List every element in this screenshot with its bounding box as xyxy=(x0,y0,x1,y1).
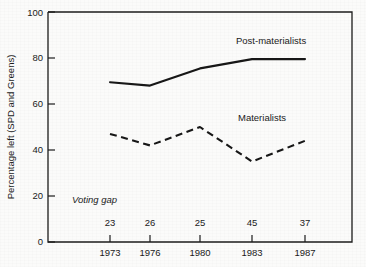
y-tick-label-60: 60 xyxy=(32,98,43,109)
x-axis-tick-labels: 1973 1976 1980 1983 1987 xyxy=(99,247,315,258)
x-axis-ticks xyxy=(110,235,305,242)
voting-gap-value-1983: 45 xyxy=(247,217,258,228)
y-tick-label-100: 100 xyxy=(27,7,43,18)
voting-gap-value-1987: 37 xyxy=(300,217,311,228)
y-axis-title: Percentage left (SPD and Greens) xyxy=(5,55,16,200)
series-label-materialists: Materialists xyxy=(238,112,286,123)
y-axis-ticks xyxy=(48,12,55,242)
y-tick-label-40: 40 xyxy=(32,144,43,155)
y-tick-label-20: 20 xyxy=(32,190,43,201)
x-tick-label-1976: 1976 xyxy=(139,247,160,258)
series-line-materialists xyxy=(110,127,305,162)
y-axis-tick-labels: 100 80 60 40 20 0 xyxy=(27,7,43,247)
voting-gap-value-1973: 23 xyxy=(105,217,116,228)
voting-gap-value-1980: 25 xyxy=(195,217,206,228)
y-tick-label-80: 80 xyxy=(32,52,43,63)
x-tick-label-1987: 1987 xyxy=(294,247,315,258)
voting-gap-value-1976: 26 xyxy=(145,217,156,228)
chart-svg: 100 80 60 40 20 0 Percentage left (SPD a… xyxy=(0,0,366,267)
voting-gap-caption: Voting gap xyxy=(72,194,117,205)
x-tick-label-1983: 1983 xyxy=(241,247,262,258)
voting-gap-values: 23 26 25 45 37 xyxy=(105,217,311,228)
y-tick-label-0: 0 xyxy=(38,236,43,247)
x-tick-label-1973: 1973 xyxy=(99,247,120,258)
x-tick-label-1980: 1980 xyxy=(189,247,210,258)
line-chart-figure: 100 80 60 40 20 0 Percentage left (SPD a… xyxy=(0,0,366,267)
series-label-post-materialists: Post-materialists xyxy=(236,35,306,46)
series-line-post-materialists xyxy=(110,59,305,86)
